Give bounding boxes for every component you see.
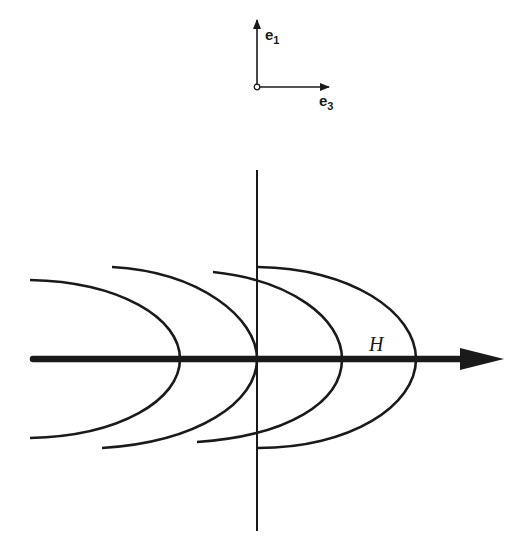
e3-label: e3 <box>319 92 333 112</box>
e1-label: e1 <box>265 26 279 46</box>
field-label-h: H <box>368 333 385 355</box>
origin-marker <box>254 84 260 90</box>
axes-legend: e1 e3 <box>254 20 333 112</box>
field-arrow <box>33 348 504 370</box>
diagram-canvas: e1 e3 H <box>0 0 523 560</box>
field-arrowhead <box>460 348 504 370</box>
